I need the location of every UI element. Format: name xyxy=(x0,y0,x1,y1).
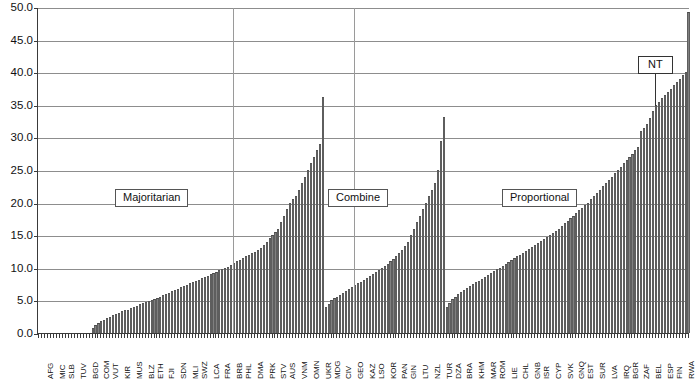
x-tick-label: DMA xyxy=(257,362,265,379)
x-tick-mark xyxy=(682,334,683,338)
bar xyxy=(564,223,566,333)
x-tick-mark xyxy=(97,334,98,338)
x-tick-mark xyxy=(587,334,588,338)
x-tick-mark xyxy=(646,334,647,338)
x-tick-mark xyxy=(322,334,323,338)
x-tick-label: SVK xyxy=(567,363,575,379)
bar xyxy=(670,89,672,334)
x-tick-mark xyxy=(103,334,104,338)
bar xyxy=(478,281,480,333)
bar xyxy=(210,274,212,333)
bar xyxy=(387,264,389,333)
x-tick-label: KHM xyxy=(478,362,486,379)
bar xyxy=(369,276,371,333)
x-tick-mark xyxy=(198,334,199,338)
bar xyxy=(673,85,675,333)
bar xyxy=(552,233,554,333)
x-tick-mark xyxy=(611,334,612,338)
bar xyxy=(153,299,155,333)
bar xyxy=(481,279,483,333)
y-tick-label: 40.0 xyxy=(11,67,38,79)
x-tick-mark xyxy=(490,334,491,338)
x-tick-mark xyxy=(41,334,42,338)
x-tick-mark xyxy=(342,334,343,338)
bar xyxy=(92,328,94,333)
bar xyxy=(336,297,338,334)
x-tick-label: ROM xyxy=(499,361,507,379)
x-tick-label: AUS xyxy=(289,363,297,379)
x-tick-mark xyxy=(528,334,529,338)
bar xyxy=(162,295,164,333)
y-tick-label: 30.0 xyxy=(11,133,38,145)
bar xyxy=(348,289,350,333)
bar xyxy=(328,304,330,333)
x-tick-mark xyxy=(428,334,429,338)
x-tick-mark xyxy=(59,334,60,338)
x-tick-mark xyxy=(139,334,140,338)
x-tick-mark xyxy=(112,334,113,338)
x-tick-label: SUR xyxy=(599,362,607,379)
bar xyxy=(392,259,394,333)
x-tick-mark xyxy=(354,334,355,338)
x-tick-mark xyxy=(215,334,216,338)
x-tick-mark xyxy=(390,334,391,338)
x-tick-mark xyxy=(381,334,382,338)
bar xyxy=(463,290,465,333)
bar xyxy=(389,261,391,333)
x-tick-mark xyxy=(71,334,72,338)
bar xyxy=(516,256,518,333)
x-tick-mark xyxy=(620,334,621,338)
x-tick-mark xyxy=(561,334,562,338)
x-tick-label: ETH xyxy=(157,363,165,379)
x-tick-mark xyxy=(325,334,326,338)
x-tick-mark xyxy=(80,334,81,338)
x-tick-mark xyxy=(398,334,399,338)
x-tick-mark xyxy=(213,334,214,338)
x-tick-label: SDN xyxy=(180,362,188,379)
x-tick-mark xyxy=(664,334,665,338)
x-tick-mark xyxy=(567,334,568,338)
bar xyxy=(531,247,533,333)
x-tick-mark xyxy=(307,334,308,338)
bar xyxy=(437,170,439,333)
x-tick-label: LVA xyxy=(611,365,619,379)
x-tick-mark xyxy=(251,334,252,338)
x-tick-mark xyxy=(121,334,122,338)
x-tick-mark xyxy=(118,334,119,338)
bar xyxy=(183,286,185,333)
x-tick-mark xyxy=(38,334,39,338)
bar xyxy=(599,190,601,333)
x-tick-mark xyxy=(419,334,420,338)
x-tick-mark xyxy=(298,334,299,338)
bar xyxy=(115,314,117,333)
x-tick-mark xyxy=(130,334,131,338)
x-tick-mark xyxy=(77,334,78,338)
x-tick-mark xyxy=(263,334,264,338)
x-tick-mark xyxy=(274,334,275,338)
bar xyxy=(558,229,560,333)
x-tick-mark xyxy=(513,334,514,338)
group-label-combine: Combine xyxy=(328,189,388,207)
x-tick-mark xyxy=(466,334,467,338)
x-tick-mark xyxy=(387,334,388,338)
bar xyxy=(581,208,583,333)
x-tick-label: FIN xyxy=(676,366,684,379)
bar xyxy=(676,82,678,333)
x-tick-mark xyxy=(333,334,334,338)
x-tick-label: GNB xyxy=(534,362,542,379)
x-tick-mark xyxy=(254,334,255,338)
bar xyxy=(325,307,327,333)
y-tick-label: 15.0 xyxy=(11,230,38,242)
bar xyxy=(274,232,276,333)
bar xyxy=(319,144,321,333)
x-tick-mark xyxy=(304,334,305,338)
x-tick-mark xyxy=(655,334,656,338)
bar xyxy=(620,167,622,333)
bar xyxy=(139,304,141,333)
bar xyxy=(360,282,362,334)
bar xyxy=(590,199,592,333)
bar xyxy=(201,278,203,333)
bar xyxy=(640,131,642,333)
x-tick-mark xyxy=(74,334,75,338)
x-tick-mark xyxy=(472,334,473,338)
